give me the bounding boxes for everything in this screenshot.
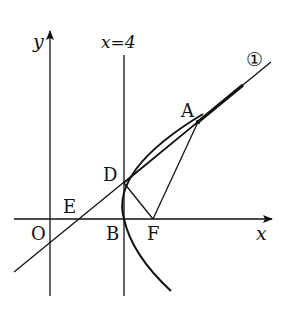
- y-axis-label: y: [32, 30, 44, 52]
- segment-AD: [124, 122, 198, 183]
- parabola-curve: [122, 114, 203, 291]
- label-B: B: [106, 223, 119, 244]
- x-axis-label: x: [256, 222, 267, 244]
- vertical-line-label: x=4: [101, 32, 136, 52]
- segment-AF: [153, 122, 198, 219]
- label-O: O: [31, 223, 46, 244]
- diagram-canvas: y x x=4 ① O E B F D A: [0, 0, 292, 319]
- label-F: F: [147, 223, 160, 244]
- point-A: [196, 120, 200, 124]
- segment-DF: [124, 183, 153, 219]
- label-D: D: [103, 164, 117, 185]
- label-E: E: [63, 196, 76, 217]
- line-1-thick-segment: [198, 85, 243, 122]
- label-A: A: [180, 100, 195, 121]
- line-1-marker: ①: [246, 48, 263, 70]
